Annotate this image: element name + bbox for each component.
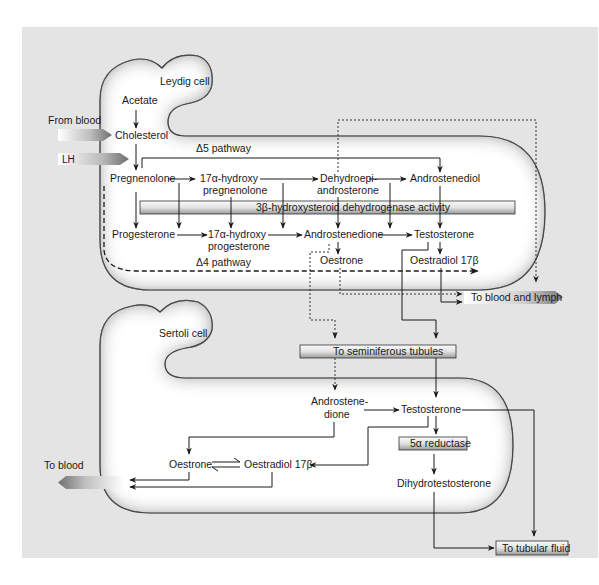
to-blood-lymph-label: To blood and lymph xyxy=(471,291,562,303)
to-blood-label: To blood xyxy=(44,459,84,471)
sertoli-androstenedione-label-2: dione xyxy=(324,408,350,420)
oestradiol-label: Oestradiol 17β xyxy=(410,254,479,266)
cholesterol-label: Cholesterol xyxy=(115,129,168,141)
enzyme-bar-label: 3β-hydroxysteroid dehydrogenase activity xyxy=(256,201,451,213)
dhea-label-1: Dehydroepi- xyxy=(320,172,378,184)
dhea-label-2: androsterone xyxy=(317,184,379,196)
progesterone-label: Progesterone xyxy=(112,228,175,240)
tubular-fluid-label: To tubular fluid xyxy=(502,542,570,554)
testosterone-label: Testosterone xyxy=(414,228,474,240)
dht-label: Dihydrotestosterone xyxy=(397,477,491,489)
delta5-pathway-label: Δ5 pathway xyxy=(196,142,252,154)
to-blood-arrow xyxy=(58,476,124,489)
from-blood-arrow xyxy=(58,129,112,141)
from-blood-label: From blood xyxy=(48,114,101,126)
hydroxy-preg-label-1: 17α-hydroxy xyxy=(200,172,259,184)
sertoli-androstenedione-label-1: Androstene- xyxy=(311,395,369,407)
hydroxy-prog-label-1: 17α-hydroxy xyxy=(208,228,267,240)
sertoli-oestrone-label: Oestrone xyxy=(169,458,212,470)
lh-label: LH xyxy=(62,154,75,165)
androstenediol-label: Androstenediol xyxy=(410,172,480,184)
sertoli-testosterone-label: Testosterone xyxy=(401,403,461,415)
leydig-cell-label: Leydig cell xyxy=(160,75,210,87)
pregnenolone-label: Pregnenolone xyxy=(110,172,176,184)
acetate-label: Acetate xyxy=(122,94,158,106)
delta4-pathway-label: Δ4 pathway xyxy=(196,256,252,268)
reductase-label: 5α reductase xyxy=(410,437,471,449)
hydroxy-preg-label-2: pregnenolone xyxy=(203,184,267,196)
oestrone-label: Oestrone xyxy=(320,254,363,266)
diagram-canvas: Leydig cell Acetate Cholesterol From blo… xyxy=(0,0,599,585)
sertoli-oestradiol-label: Oestradiol 17β xyxy=(244,458,313,470)
seminiferous-tubules-label: To seminiferous tubules xyxy=(333,345,443,357)
androstenedione-label: Androstenedione xyxy=(304,228,384,240)
steroidogenesis-diagram: Leydig cell Acetate Cholesterol From blo… xyxy=(0,0,599,585)
sertoli-cell-label: Sertoli cell xyxy=(159,327,207,339)
hydroxy-prog-label-2: progesterone xyxy=(208,240,270,252)
